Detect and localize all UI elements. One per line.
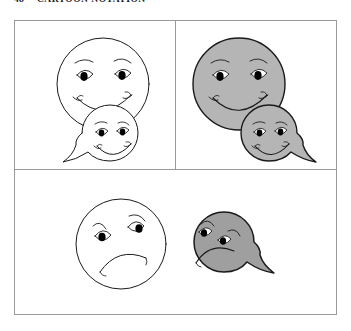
running-head-title: CARTOON NOTATION: [37, 0, 146, 4]
panel-bottom: [15, 170, 336, 314]
sad-pair-illustration: [15, 170, 336, 314]
small-sad-teardrop-shaded: [194, 212, 274, 273]
panel-top-left: [15, 21, 176, 169]
figure-frame: [14, 20, 337, 315]
happy-pair-shaded-illustration: [176, 21, 336, 169]
small-happy-teardrop-shaded: [241, 105, 316, 162]
running-head: 48 CARTOON NOTATION: [14, 0, 334, 4]
panel-top-right: [176, 21, 336, 169]
happy-pair-outline-illustration: [15, 21, 176, 169]
page-folio: 48: [14, 0, 24, 4]
large-sad-face-outline: [76, 199, 166, 289]
